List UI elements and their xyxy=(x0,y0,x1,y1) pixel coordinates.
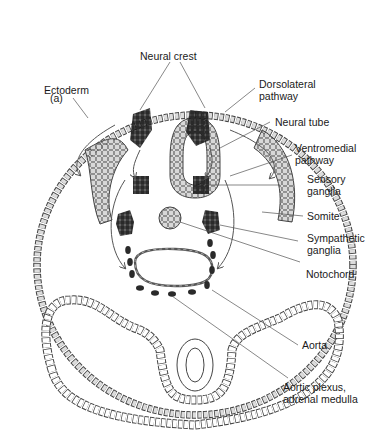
label-notochord: Notochord xyxy=(306,268,355,280)
label-ventromedial-pathway-2: pathway xyxy=(295,154,335,166)
label-ventromedial-pathway: Ventromedial xyxy=(295,142,356,154)
label-sympathetic-ganglia-2: ganglia xyxy=(307,244,341,256)
label-neural-crest: Neural crest xyxy=(140,50,197,62)
label-sympathetic-ganglia: Sympathetic xyxy=(307,232,365,244)
neural-crest-migration-diagram: (a) xyxy=(0,0,387,441)
label-sensory-ganglia-2: ganglia xyxy=(307,185,341,197)
label-neural-tube: Neural tube xyxy=(275,116,329,128)
label-ectoderm: Ectoderm xyxy=(44,84,89,96)
label-dorsolateral-pathway-2: pathway xyxy=(259,90,299,102)
label-aorta: Aorta xyxy=(302,339,327,351)
gut-tube xyxy=(177,339,213,391)
aortic-plexus-cells xyxy=(125,239,216,297)
label-somite: Somite xyxy=(307,210,340,222)
notochord xyxy=(159,207,181,229)
label-dorsolateral-pathway: Dorsolateral xyxy=(259,78,316,90)
label-aortic-plexus: Aortic plexus, xyxy=(283,381,346,393)
label-sensory-ganglia: Sensory xyxy=(307,173,346,185)
somite-left xyxy=(85,139,128,224)
aorta xyxy=(135,249,212,286)
label-adrenal-medulla: adrenal medulla xyxy=(283,393,358,405)
